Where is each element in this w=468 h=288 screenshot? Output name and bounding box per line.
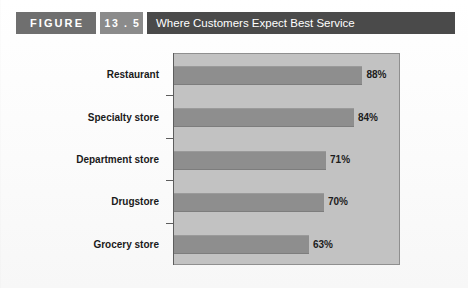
value-axis-line [173,53,174,265]
category-label: Department store [76,154,159,165]
bar-chart: RestaurantSpecialty storeDepartment stor… [0,53,468,265]
bar [174,193,324,212]
bar [174,66,362,85]
figure-number-badge: 13 . 5 [100,12,143,34]
bar-value-label: 70% [328,196,348,207]
figure-label: FIGURE [16,12,96,34]
axis-tick [166,95,173,96]
axis-tick [166,138,173,139]
plot-area [173,53,400,265]
bar-value-label: 63% [313,238,333,249]
figure-title: Where Customers Expect Best Service [147,12,455,34]
category-label: Grocery store [93,238,159,249]
axis-tick [166,223,173,224]
bar [174,108,354,127]
bar [174,235,309,254]
figure-header: FIGURE 13 . 5 Where Customers Expect Bes… [16,12,455,34]
category-axis-labels: RestaurantSpecialty storeDepartment stor… [0,53,168,265]
bar-value-label: 84% [358,111,378,122]
category-label: Specialty store [88,111,159,122]
bar-value-label: 88% [366,69,386,80]
category-label: Restaurant [107,69,159,80]
category-label: Drugstore [111,196,159,207]
bar [174,151,326,170]
bar-value-label: 71% [330,154,350,165]
axis-tick [166,180,173,181]
